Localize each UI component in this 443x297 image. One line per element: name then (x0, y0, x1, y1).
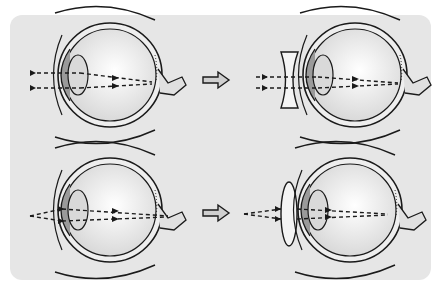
vision-correction-diagram (0, 0, 443, 297)
right-arrow-icon (203, 205, 229, 221)
eye-nearsighted (30, 6, 186, 143)
concave-lens (281, 52, 298, 108)
eye-corrected-with-convex-lens (244, 141, 426, 278)
ray-arrowhead-icon (30, 85, 36, 91)
convex-lens (281, 182, 297, 246)
right-arrow-icon (203, 72, 229, 88)
eye-corrected-with-concave-lens (256, 6, 431, 143)
eye-farsighted (30, 141, 186, 278)
ray-arrowhead-icon (30, 70, 36, 76)
